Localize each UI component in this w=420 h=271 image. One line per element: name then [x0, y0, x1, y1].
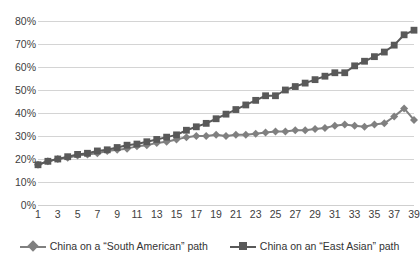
data-point-square: [183, 127, 190, 134]
data-point-square: [193, 123, 200, 130]
data-point-diamond: [301, 126, 309, 134]
data-point-square: [292, 83, 299, 90]
data-point-square: [322, 73, 329, 80]
series-line: [38, 30, 414, 165]
data-point-square: [153, 136, 160, 143]
data-point-diamond: [341, 121, 349, 129]
y-axis-tick-label: 60%: [2, 62, 36, 73]
legend-item-south-american[interactable]: China on a “South American” path: [20, 240, 208, 252]
data-point-square: [312, 76, 319, 83]
data-point-square: [203, 120, 210, 127]
x-axis-tick-label: 1: [35, 208, 41, 220]
data-point-square: [341, 69, 348, 76]
data-point-square: [391, 42, 398, 49]
data-point-diamond: [242, 131, 250, 139]
data-point-diamond: [291, 126, 299, 134]
x-axis-tick-label: 3: [55, 208, 61, 220]
y-axis-tick-label: 0%: [2, 200, 36, 211]
data-point-diamond: [202, 132, 210, 140]
data-point-diamond: [222, 132, 230, 140]
y-axis-tick-label: 50%: [2, 85, 36, 96]
data-point-square: [35, 161, 42, 168]
data-point-square: [64, 153, 71, 160]
data-point-square: [242, 102, 249, 109]
x-axis-tick-label: 7: [94, 208, 100, 220]
x-axis-tick-label: 35: [369, 208, 381, 220]
x-axis-tick-label: 9: [114, 208, 120, 220]
x-axis-tick-label: 21: [230, 208, 242, 220]
x-axis-tick-label: 23: [250, 208, 262, 220]
data-point-square: [272, 92, 279, 99]
x-axis-labels: 13579111315171921232527293133353739: [38, 208, 414, 224]
data-point-diamond: [192, 132, 200, 140]
data-point-diamond: [311, 125, 319, 133]
x-axis-tick-label: 37: [388, 208, 400, 220]
data-point-square: [124, 142, 131, 149]
y-axis-tick-label: 20%: [2, 154, 36, 165]
data-point-square: [223, 111, 230, 118]
data-point-square: [252, 97, 259, 104]
x-axis-tick-label: 31: [329, 208, 341, 220]
x-axis-tick-label: 25: [270, 208, 282, 220]
data-point-square: [94, 148, 101, 155]
data-point-diamond: [361, 123, 369, 131]
y-axis-tick-label: 80%: [2, 16, 36, 27]
data-point-square: [173, 131, 180, 138]
data-point-square: [381, 49, 388, 56]
data-point-diamond: [252, 130, 260, 138]
legend-item-east-asian[interactable]: China on an “East Asian” path: [230, 240, 400, 252]
data-point-diamond: [281, 127, 289, 135]
gridline: [38, 205, 414, 206]
series-east-asian: [35, 27, 418, 168]
data-point-square: [134, 141, 141, 148]
y-axis-tick-label: 40%: [2, 108, 36, 119]
chart-legend: China on a “South American” path China o…: [0, 240, 419, 252]
x-axis-tick-label: 5: [75, 208, 81, 220]
data-point-square: [143, 138, 150, 145]
data-point-square: [302, 80, 309, 87]
data-point-square: [401, 31, 408, 38]
data-point-square: [114, 144, 121, 151]
y-axis-tick-label: 10%: [2, 177, 36, 188]
data-point-square: [411, 27, 418, 34]
data-point-square: [44, 158, 51, 165]
x-axis-tick-label: 13: [151, 208, 163, 220]
data-point-diamond: [351, 122, 359, 130]
y-axis-tick-label: 30%: [2, 131, 36, 142]
series-layer: [38, 21, 414, 205]
data-point-diamond: [271, 127, 279, 135]
x-axis-tick-label: 11: [131, 208, 142, 220]
x-axis-tick-label: 15: [171, 208, 183, 220]
data-point-diamond: [262, 129, 270, 137]
data-point-square: [54, 156, 61, 163]
x-axis-tick-label: 17: [190, 208, 202, 220]
data-point-square: [351, 62, 358, 69]
data-point-diamond: [370, 121, 378, 129]
data-point-square: [104, 146, 111, 153]
data-point-square: [232, 106, 239, 113]
legend-marker-square-icon: [230, 241, 256, 251]
data-point-square: [361, 58, 368, 65]
data-point-diamond: [321, 124, 329, 132]
data-point-square: [282, 87, 289, 94]
y-axis-tick-label: 70%: [2, 39, 36, 50]
data-point-square: [84, 150, 91, 157]
x-axis-tick-label: 27: [289, 208, 301, 220]
data-point-diamond: [182, 133, 190, 141]
data-point-square: [163, 134, 170, 141]
data-point-square: [74, 151, 81, 158]
data-point-diamond: [331, 122, 339, 130]
data-point-square: [213, 115, 220, 122]
data-point-square: [331, 69, 338, 76]
plot-area: [38, 21, 414, 205]
x-axis-tick-label: 29: [309, 208, 321, 220]
data-point-diamond: [212, 131, 220, 139]
y-axis-labels: 80%70%60%50%40%30%20%10%0%: [0, 21, 36, 205]
data-point-square: [371, 53, 378, 60]
data-point-square: [262, 92, 269, 99]
data-point-diamond: [232, 131, 240, 139]
x-axis-tick-label: 19: [210, 208, 222, 220]
legend-label: China on an “East Asian” path: [260, 240, 400, 252]
legend-marker-diamond-icon: [20, 241, 46, 251]
